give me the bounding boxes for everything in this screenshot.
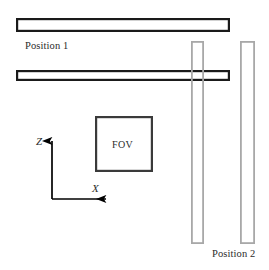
z-axis-label: Z bbox=[36, 136, 42, 147]
x-axis-label: X bbox=[92, 183, 99, 194]
slab-horizontal-top bbox=[17, 19, 229, 31]
slab-horizontal-bottom bbox=[17, 71, 229, 80]
position-2-label: Position 2 bbox=[212, 249, 255, 260]
fov-label: FOV bbox=[112, 140, 133, 150]
diagram-canvas: Position 1 Position 2 FOV Z X bbox=[0, 0, 269, 270]
position-1-label: Position 1 bbox=[25, 41, 68, 52]
slab-vertical-outer bbox=[241, 42, 254, 243]
